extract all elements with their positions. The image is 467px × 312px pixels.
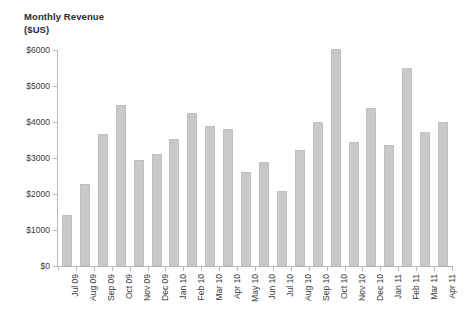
x-axis-tick-label: Nov 10	[357, 274, 367, 301]
bar	[349, 142, 359, 266]
y-axis-tick-label: $2000	[26, 189, 50, 199]
x-axis-tick-mark	[452, 267, 453, 271]
x-axis-tick-mark	[58, 267, 59, 271]
x-axis-tick-mark	[273, 267, 274, 271]
bar	[313, 122, 323, 266]
y-axis-tick-mark	[53, 158, 57, 159]
bar	[420, 132, 430, 266]
x-axis-tick-label: Mar 11	[429, 274, 439, 300]
y-axis-tick-labels: $0$1000$2000$3000$4000$5000$6000	[0, 0, 50, 312]
bar	[223, 129, 233, 266]
x-axis-tick-label: Mar 10	[214, 274, 224, 300]
bar	[116, 105, 126, 266]
x-axis-tick-mark	[398, 267, 399, 271]
y-axis-tick-mark	[53, 230, 57, 231]
bar	[331, 49, 341, 266]
bar	[98, 134, 108, 266]
x-axis-tick-mark	[309, 267, 310, 271]
x-axis-tick-label: May 10	[250, 274, 260, 302]
x-axis-tick-label: Jul 09	[70, 274, 80, 297]
x-axis-tick-mark	[380, 267, 381, 271]
y-axis-tick-mark	[53, 194, 57, 195]
bar	[187, 113, 197, 266]
x-axis-tick-label: Jun 10	[267, 274, 277, 300]
x-axis-tick-mark	[345, 267, 346, 271]
x-axis-tick-label: Jul 10	[285, 274, 295, 297]
bar	[277, 191, 287, 266]
bar	[152, 154, 162, 266]
x-axis-tick-label: Apr 11	[447, 274, 457, 298]
bar	[295, 150, 305, 266]
y-axis-tick-label: $4000	[26, 117, 50, 127]
bar	[402, 68, 412, 266]
x-axis-tick-mark	[362, 267, 363, 271]
bar	[134, 160, 144, 266]
x-axis-tick-label: Nov 09	[142, 274, 152, 301]
x-axis-tick-label: Sep 09	[106, 274, 116, 301]
x-axis-tick-mark	[130, 267, 131, 271]
y-axis-tick-mark	[53, 50, 57, 51]
x-axis-tick-label: Sep 10	[321, 274, 331, 301]
x-axis-tick-label: Dec 09	[160, 274, 170, 301]
bar	[80, 184, 90, 266]
x-axis-tick-label: Feb 11	[411, 274, 421, 300]
y-axis-tick-mark	[53, 86, 57, 87]
x-axis-tick-mark	[327, 267, 328, 271]
plot-area	[58, 50, 452, 266]
x-axis-tick-mark	[291, 267, 292, 271]
bar	[366, 108, 376, 266]
x-axis-tick-label: Dec 10	[375, 274, 385, 301]
x-axis-tick-mark	[237, 267, 238, 271]
y-axis-tick-label: $0	[41, 261, 50, 271]
x-axis-tick-label: Apr 10	[232, 274, 242, 299]
bar	[259, 162, 269, 266]
x-axis-tick-mark	[165, 267, 166, 271]
x-axis-tick-mark	[76, 267, 77, 271]
x-axis-tick-label: Aug 09	[88, 274, 98, 301]
x-axis-tick-label: Aug 10	[303, 274, 313, 301]
bar	[169, 139, 179, 266]
x-axis-tick-label: Jan 10	[178, 274, 188, 300]
x-axis-tick-mark	[219, 267, 220, 271]
chart-page: Monthly Revenue ($US) $0$1000$2000$3000$…	[0, 0, 467, 312]
x-axis-tick-mark	[183, 267, 184, 271]
x-axis-tick-mark	[434, 267, 435, 271]
x-axis-tick-label: Jan 11	[393, 274, 403, 299]
bar	[205, 126, 215, 266]
bar	[62, 215, 72, 266]
y-axis-tick-label: $6000	[26, 45, 50, 55]
chart-title: Monthly Revenue ($US)	[24, 10, 204, 36]
bar	[241, 172, 251, 266]
y-axis-tick-label: $1000	[26, 225, 50, 235]
x-axis-tick-mark	[255, 267, 256, 271]
bar	[438, 122, 448, 266]
x-axis-tick-label: Oct 09	[124, 274, 134, 299]
x-axis-tick-mark	[148, 267, 149, 271]
x-axis-tick-mark	[201, 267, 202, 271]
y-axis-tick-mark	[53, 122, 57, 123]
x-axis-tick-mark	[416, 267, 417, 271]
x-axis-tick-mark	[112, 267, 113, 271]
x-axis-tick-label: Feb 10	[196, 274, 206, 300]
x-axis-tick-label: Oct 10	[339, 274, 349, 299]
y-axis-tick-mark	[53, 266, 57, 267]
y-axis-tick-label: $3000	[26, 153, 50, 163]
y-axis-tick-label: $5000	[26, 81, 50, 91]
bar	[384, 145, 394, 266]
x-axis-tick-mark	[94, 267, 95, 271]
